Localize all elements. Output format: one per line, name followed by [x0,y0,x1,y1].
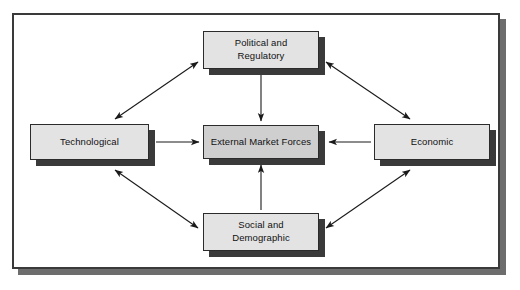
node-label-social: Social and Demographic [232,219,290,244]
node-label-economic: Economic [411,136,454,149]
connector-technological-political [115,62,198,119]
connector-political-economic [326,62,410,119]
node-political-and-regulatory[interactable]: Political and Regulatory [203,31,319,69]
node-external-market-forces[interactable]: External Market Forces [203,125,319,159]
connector-social-economic [326,170,410,228]
node-social-and-demographic[interactable]: Social and Demographic [203,213,319,251]
diagram-canvas: Political and Regulatory Technological E… [0,0,520,290]
connector-technological-social [115,170,198,228]
node-label-technological: Technological [60,136,119,149]
node-label-center: External Market Forces [211,136,311,149]
node-label-political: Political and Regulatory [235,37,288,62]
node-economic[interactable]: Economic [374,124,490,160]
node-technological[interactable]: Technological [30,124,149,160]
